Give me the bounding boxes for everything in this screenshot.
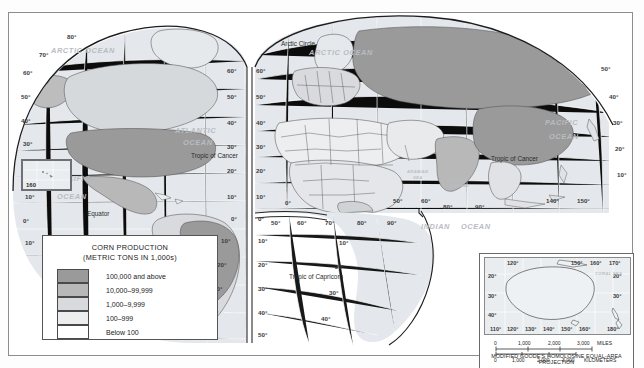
legend-row: 10,000–99,999	[57, 283, 217, 297]
svg-text:PACIFIC: PACIFIC	[545, 118, 578, 127]
legend-row: Below 100	[57, 325, 217, 339]
legend-label-2: 1,000–9,999	[106, 301, 145, 308]
svg-text:130°: 130°	[525, 326, 537, 332]
legend-title: CORN PRODUCTION (METRIC TONS IN 1,000s)	[43, 243, 217, 263]
svg-text:Equator: Equator	[87, 210, 110, 218]
svg-text:40°: 40°	[256, 119, 266, 126]
svg-text:10°: 10°	[339, 239, 349, 246]
svg-text:20°: 20°	[217, 261, 227, 268]
hawaii-inset: 160	[21, 159, 72, 191]
svg-text:60°: 60°	[23, 69, 33, 76]
hawaii-inset-longitude-label: 160	[26, 182, 36, 188]
legend-swatch-0	[57, 269, 89, 283]
svg-text:10°: 10°	[258, 237, 268, 244]
svg-text:10°: 10°	[25, 239, 35, 246]
svg-text:30°: 30°	[329, 289, 339, 296]
projection-caption: MODIFIED GOODE'S HOMOLOSINE EQUAL-AREA P…	[480, 353, 633, 365]
svg-text:20°: 20°	[258, 261, 268, 268]
svg-text:180°: 180°	[607, 326, 619, 332]
svg-text:Tropic of Cancer: Tropic of Cancer	[191, 152, 239, 160]
svg-text:BAY OF: BAY OF	[449, 177, 466, 182]
svg-text:30°: 30°	[23, 140, 33, 147]
svg-text:40°: 40°	[609, 93, 619, 100]
svg-text:0°: 0°	[23, 217, 29, 224]
svg-text:20°: 20°	[227, 167, 237, 174]
southern-graticule	[255, 212, 435, 345]
miles-tick-3: 3,000	[577, 340, 590, 346]
svg-text:90°: 90°	[387, 219, 397, 226]
svg-text:0°: 0°	[258, 215, 264, 222]
svg-text:40°: 40°	[258, 309, 268, 316]
legend-swatch-3	[57, 311, 89, 325]
svg-text:60°: 60°	[421, 197, 431, 204]
svg-text:90°: 90°	[475, 203, 485, 210]
svg-text:80°: 80°	[443, 203, 453, 210]
svg-text:60°: 60°	[297, 219, 307, 226]
svg-text:140°: 140°	[543, 326, 555, 332]
svg-text:120°: 120°	[507, 260, 519, 266]
svg-text:50°: 50°	[393, 197, 403, 204]
legend-row: 1,000–9,999	[57, 297, 217, 311]
australia-map-svg: 120° 150° 160° 170° 20° 30° 40° 20° 30°	[485, 258, 630, 334]
svg-text:0°: 0°	[285, 199, 291, 206]
svg-text:50°: 50°	[271, 219, 281, 226]
svg-text:160°: 160°	[590, 260, 602, 266]
legend-swatch-4	[57, 325, 89, 339]
svg-text:OCEAN: OCEAN	[57, 192, 87, 201]
legend-label-3: 100–999	[106, 315, 133, 322]
svg-text:Arctic Circle: Arctic Circle	[281, 40, 316, 47]
map-frame: 80° 70° 60° 50° 40° 30° 20° 10° 0° 10° 6…	[8, 12, 633, 356]
svg-text:50°: 50°	[601, 65, 611, 72]
svg-text:50°: 50°	[256, 93, 266, 100]
svg-text:ARCTIC OCEAN: ARCTIC OCEAN	[308, 48, 373, 57]
svg-text:BENGAL: BENGAL	[450, 183, 470, 188]
svg-text:60°: 60°	[256, 67, 266, 74]
miles-unit: MILES	[597, 340, 613, 346]
svg-text:50°: 50°	[258, 331, 268, 338]
legend-title-line1: CORN PRODUCTION	[43, 243, 217, 253]
svg-text:10°: 10°	[221, 237, 231, 244]
svg-text:80°: 80°	[67, 33, 77, 40]
map-legend: CORN PRODUCTION (METRIC TONS IN 1,000s) …	[42, 235, 218, 340]
svg-text:30°: 30°	[256, 143, 266, 150]
svg-text:40°: 40°	[227, 119, 237, 126]
svg-text:170°: 170°	[609, 260, 621, 266]
miles-tick-1: 1,000	[518, 340, 531, 346]
miles-tick-0: 0	[494, 340, 497, 346]
svg-text:40°: 40°	[488, 312, 496, 318]
svg-text:OCEAN: OCEAN	[549, 132, 579, 141]
svg-text:80°: 80°	[357, 219, 367, 226]
svg-text:20°: 20°	[256, 167, 266, 174]
australia-inset-panel: 120° 150° 160° 170° 20° 30° 40° 20° 30°	[479, 253, 634, 368]
svg-text:OCEAN: OCEAN	[183, 138, 213, 147]
svg-text:30°: 30°	[258, 285, 268, 292]
svg-text:10°: 10°	[256, 193, 266, 200]
svg-text:ARCTIC OCEAN: ARCTIC OCEAN	[50, 46, 115, 55]
svg-text:160°: 160°	[579, 326, 591, 332]
svg-text:ATLANTIC: ATLANTIC	[174, 126, 216, 135]
legend-label-4: Below 100	[106, 329, 139, 336]
svg-text:10°: 10°	[25, 193, 35, 200]
legend-label-1: 10,000–99,999	[106, 287, 153, 294]
svg-text:50°: 50°	[21, 93, 31, 100]
australia-inset-map: 120° 150° 160° 170° 20° 30° 40° 20° 30°	[484, 257, 631, 335]
legend-swatch-2	[57, 297, 89, 311]
legend-swatch-1	[57, 283, 89, 297]
svg-text:140°: 140°	[546, 197, 559, 204]
svg-text:20°: 20°	[615, 145, 625, 152]
svg-text:120°: 120°	[507, 326, 519, 332]
miles-tick-2: 2,000	[548, 340, 561, 346]
legend-row: 100,000 and above	[57, 269, 217, 283]
legend-label-0: 100,000 and above	[106, 273, 166, 280]
svg-text:Tropic of Capricorn: Tropic of Capricorn	[289, 273, 344, 281]
svg-text:70°: 70°	[325, 219, 335, 226]
svg-text:SEA: SEA	[413, 175, 423, 180]
svg-text:30°: 30°	[613, 119, 623, 126]
world-corn-production-map: 80° 70° 60° 50° 40° 30° 20° 10° 0° 10° 6…	[0, 0, 644, 368]
svg-text:INDIAN: INDIAN	[421, 222, 450, 231]
svg-text:110°: 110°	[490, 326, 501, 332]
svg-text:10°: 10°	[227, 193, 237, 200]
svg-text:30°: 30°	[613, 293, 621, 299]
svg-text:30°: 30°	[227, 143, 237, 150]
svg-text:70°: 70°	[39, 51, 49, 58]
